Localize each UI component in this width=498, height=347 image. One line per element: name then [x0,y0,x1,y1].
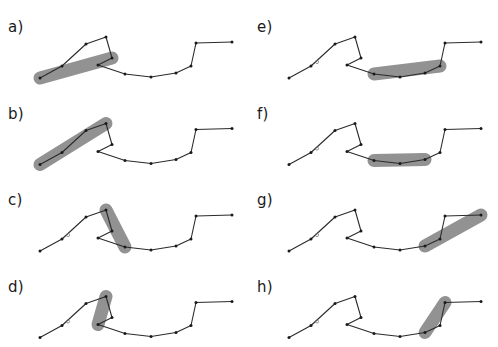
panel-label-c: c) [8,191,23,209]
vertex-dot [39,250,42,253]
vertex-dot [105,295,108,298]
panel-label-b: b) [8,105,24,123]
vertex-dot [39,336,42,339]
vertex-dot [150,162,153,165]
highlight-band [40,124,106,165]
vertex-dot [124,159,127,162]
vertex-dot [480,127,483,130]
vertex-dot [231,41,234,44]
vertex-dot [346,237,349,240]
vertex-dot [61,151,64,154]
panel-a: a) [8,18,234,80]
vertex-dot [424,245,427,248]
vertex-dot [373,73,376,76]
highlight-band [425,215,481,246]
vertex-dot [97,150,100,153]
vertex-dot [231,300,234,303]
polyline-panels-svg: a)b)c)d)e)f)g)h) [0,0,498,347]
vertex-dot [124,73,127,76]
vertex-dot [111,143,114,146]
highlight-band [374,66,440,74]
vertex-dot [288,250,291,253]
vertex-dot [439,151,442,154]
vertex-dot [310,238,313,241]
vertex-dot [105,122,108,125]
highlight-band [40,58,112,78]
vertex-dot [399,162,402,165]
vertex-dot [231,127,234,130]
vertex-dot [480,214,483,217]
vertex-dot [399,249,402,252]
vertex-dot [190,238,193,241]
vertex-dot [150,249,153,252]
vertex-dot [61,238,64,241]
vertex-dot [480,300,483,303]
vertex-dot [346,150,349,153]
vertex-dot [373,332,376,335]
vertex-dot [444,128,447,131]
panel-e: e) [257,18,483,80]
vertex-dot [444,301,447,304]
vertex-dot [334,302,337,305]
polyline [289,297,481,338]
vertex-dot [310,65,313,68]
panel-d: d) [8,278,234,340]
vertex-dot [399,76,402,79]
vertex-dot [360,230,363,233]
vertex-dot [424,158,427,161]
vertex-dot [439,324,442,327]
vertex-dot [360,57,363,60]
vertex-dot [288,336,291,339]
vertex-dot [85,302,88,305]
vertex-dot [444,42,447,45]
vertex-dot [175,158,178,161]
vertex-dot [124,246,127,249]
vertex-dot [346,323,349,326]
vertex-dot [439,65,442,68]
vertex-dot [310,324,313,327]
polyline [40,210,232,251]
panel-label-g: g) [257,191,273,209]
vertex-dot [85,43,88,46]
panel-c: c) [8,191,234,253]
vertex-dot [439,238,442,241]
vertex-dot [480,41,483,44]
vertex-dot [111,57,114,60]
vertex-dot [195,301,198,304]
vertex-dot [195,128,198,131]
vertex-dot [85,216,88,219]
highlight-band [98,297,106,325]
vertex-dot [175,72,178,75]
vertex-dot [288,163,291,166]
vertex-dot [39,163,42,166]
vertex-dot [111,316,114,319]
vertex-dot [373,159,376,162]
vertex-dot [354,36,357,39]
vertex-dot [190,65,193,68]
vertex-dot [444,215,447,218]
vertex-dot [346,64,349,67]
vertex-dot [111,230,114,233]
vertex-dot [310,151,313,154]
vertex-dot [334,43,337,46]
panel-g: g) [257,191,483,253]
vertex-dot [105,36,108,39]
vertex-dot [175,245,178,248]
vertex-dot [39,77,42,80]
vertex-dot [124,332,127,335]
panel-h: h) [257,278,483,340]
vertex-dot [61,324,64,327]
vertex-dot [105,209,108,212]
panel-label-e: e) [257,18,273,36]
vertex-dot [97,237,100,240]
figure-canvas: a)b)c)d)e)f)g)h) [0,0,498,347]
vertex-dot [424,72,427,75]
vertex-dot [231,214,234,217]
vertex-dot [61,65,64,68]
vertex-dot [150,335,153,338]
panel-label-d: d) [8,278,24,296]
vertex-dot [399,335,402,338]
vertex-dot [195,215,198,218]
panel-label-a: a) [8,18,24,36]
vertex-dot [424,331,427,334]
